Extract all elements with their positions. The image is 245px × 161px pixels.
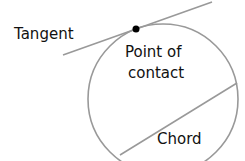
point-of-contact-dot xyxy=(133,26,140,33)
tangent-label: Tangent xyxy=(14,26,74,42)
point-of-contact-label-2: contact xyxy=(128,65,184,81)
point-of-contact-label-1: Point of xyxy=(125,44,181,60)
chord-label: Chord xyxy=(157,131,202,147)
